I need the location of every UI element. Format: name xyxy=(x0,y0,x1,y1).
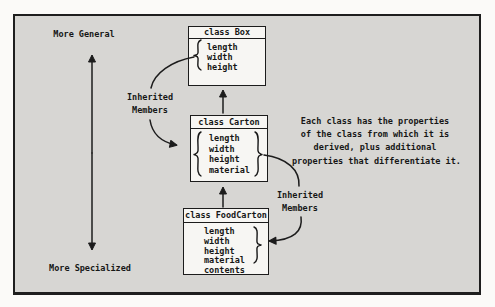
description-text: Each class has the properties of the cla… xyxy=(292,115,458,168)
class-carton-member-list: length width height material xyxy=(191,129,267,175)
member-item: height xyxy=(207,62,265,72)
more-general-label: More General xyxy=(34,28,134,41)
figure-canvas: More General More Specialized Inherited … xyxy=(0,0,495,307)
class-carton-title: class Carton xyxy=(191,116,267,129)
member-item: contents xyxy=(204,266,268,276)
description-line-4: properties that differentiate it. xyxy=(292,155,458,168)
member-item: length xyxy=(209,133,267,144)
description-line-2: of the class from which it is xyxy=(292,128,458,141)
inherited-members-left-line1: Inherited xyxy=(110,91,190,104)
description-line-1: Each class has the properties xyxy=(292,115,458,128)
class-foodcarton-member-list: length width height material contents xyxy=(184,223,268,276)
inherited-members-right-line1: Inherited xyxy=(260,189,340,202)
member-item: width xyxy=(209,144,267,155)
member-item: material xyxy=(209,165,267,176)
member-item: length xyxy=(207,42,265,52)
inherited-members-label-right: Inherited Members xyxy=(260,189,340,215)
class-box-title: class Box xyxy=(189,27,265,39)
inherited-members-right-line2: Members xyxy=(260,202,340,215)
class-box-member-list: length width height xyxy=(189,39,265,72)
class-foodcarton-title: class FoodCarton xyxy=(184,209,268,223)
inherited-members-label-left: Inherited Members xyxy=(110,91,190,117)
class-foodcarton-node: class FoodCarton length width height mat… xyxy=(183,208,269,275)
class-carton-node: class Carton length width height materia… xyxy=(190,115,268,182)
member-item: height xyxy=(209,154,267,165)
description-line-3: derived, plus additional xyxy=(292,141,458,154)
member-item: width xyxy=(207,52,265,62)
class-box-node: class Box length width height xyxy=(188,26,266,86)
more-specialized-label: More Specialized xyxy=(25,262,155,275)
inherited-members-left-line2: Members xyxy=(110,104,190,117)
